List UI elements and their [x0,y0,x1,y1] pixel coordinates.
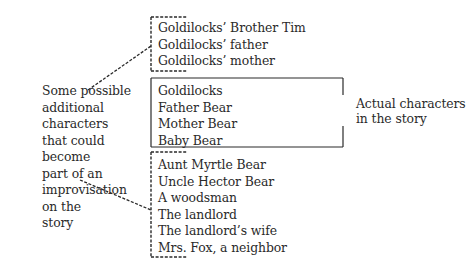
list-item: The landlord’s wife [158,223,287,240]
actual-characters-label: Actual characters in the story [356,96,466,126]
list-item: Mrs. Fox, a neighbor [158,240,287,257]
label-line: in the story [356,111,466,126]
label-line: part of an [42,166,131,183]
list-item: Goldilocks’ father [158,37,306,54]
list-item: Baby Bear [158,133,237,150]
possible-characters-label: Some possible additional characters that… [42,83,131,232]
label-line: characters [42,116,131,133]
list-item: Aunt Myrtle Bear [158,157,287,174]
list-item: Goldilocks’ mother [158,53,306,70]
list-item: Goldilocks’ Brother Tim [158,20,306,37]
label-line: story [42,215,131,232]
list-item: A woodsman [158,190,287,207]
label-line: on the [42,199,131,216]
list-item: Mother Bear [158,116,237,133]
actual-characters-list: Goldilocks Father Bear Mother Bear Baby … [158,83,237,149]
possible-characters-top-list: Goldilocks’ Brother Tim Goldilocks’ fath… [158,20,306,70]
label-line: additional [42,100,131,117]
label-line: that could [42,133,131,150]
label-line: become [42,149,131,166]
label-line: improvisation [42,182,131,199]
list-item: Father Bear [158,100,237,117]
label-line: Actual characters [356,96,466,111]
possible-characters-bottom-list: Aunt Myrtle Bear Uncle Hector Bear A woo… [158,157,287,256]
list-item: The landlord [158,207,287,224]
label-line: Some possible [42,83,131,100]
list-item: Uncle Hector Bear [158,174,287,191]
list-item: Goldilocks [158,83,237,100]
